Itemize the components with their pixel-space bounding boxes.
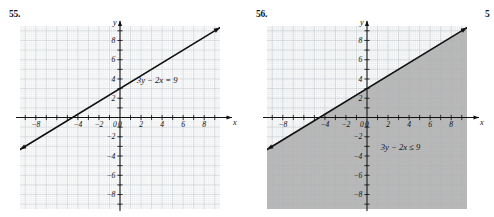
origin-label: 0 [360, 120, 364, 129]
y-tick-label: −8 [353, 190, 362, 199]
x-tick-label: 4 [160, 120, 164, 129]
x-tick-label: 6 [181, 120, 185, 129]
x-axis-label: x [479, 118, 484, 127]
y-tick-label: −4 [106, 152, 115, 161]
x-tick-label: 8 [202, 120, 206, 129]
x-axis-arrow [227, 115, 233, 119]
x-tick-label: −2 [341, 120, 350, 129]
origin-label: 0 [113, 120, 117, 129]
equation-label: 3y − 2x = 9 [136, 75, 178, 85]
x-tick-label: 2 [139, 120, 143, 129]
figure-number-56: 56. [256, 9, 267, 19]
y-tick-label: 6 [112, 55, 116, 64]
y-tick-label: 2 [112, 94, 116, 103]
y-tick-label: −4 [353, 152, 362, 161]
x-tick-label: −4 [320, 120, 329, 129]
y-tick-label: −6 [106, 171, 115, 180]
y-tick-label: 4 [359, 75, 363, 84]
figure-55: 55. −8−4−2024688642−2−4−6−80xy3y − 2x = … [0, 0, 247, 217]
x-tick-label: 6 [428, 120, 432, 129]
x-tick-label: −8 [278, 120, 287, 129]
x-tick-label: −4 [73, 120, 82, 129]
y-tick-label: −6 [353, 171, 362, 180]
y-tick-label: 8 [359, 36, 363, 45]
x-tick-label: 0 [118, 120, 122, 129]
y-axis-arrow [118, 21, 122, 27]
x-axis-arrow [474, 115, 480, 119]
y-axis-arrow [365, 21, 369, 27]
equation-label: 3y − 2x ≤ 9 [380, 142, 421, 152]
y-tick-label: 2 [359, 94, 363, 103]
y-tick-label: 6 [359, 55, 363, 64]
y-tick-label: −2 [353, 132, 362, 141]
y-axis-label: y [112, 20, 117, 27]
next-figure-number-partial: 5 [485, 9, 493, 19]
x-tick-label: 4 [407, 120, 411, 129]
x-tick-label: 8 [449, 120, 453, 129]
y-axis-label: y [359, 20, 364, 27]
plot-area-56: −8−4−2024688642−2−4−6−80xy3y − 2x ≤ 9 [257, 20, 489, 215]
figure-56: 56. −8−4−2024688642−2−4−6−80xy3y − 2x ≤ … [247, 0, 494, 217]
worksheet-page: 55. −8−4−2024688642−2−4−6−80xy3y − 2x = … [0, 0, 494, 217]
y-tick-label: −8 [106, 190, 115, 199]
y-tick-label: 4 [112, 75, 116, 84]
y-tick-label: −2 [106, 132, 115, 141]
figure-number-55: 55. [9, 9, 20, 19]
y-tick-label: 8 [112, 36, 116, 45]
coordinate-plane-55: −8−4−2024688642−2−4−6−80xy3y − 2x = 9 [10, 20, 242, 215]
x-tick-label: 0 [365, 120, 369, 129]
coordinate-plane-56: −8−4−2024688642−2−4−6−80xy3y − 2x ≤ 9 [257, 20, 489, 215]
x-tick-label: 2 [386, 120, 390, 129]
x-tick-label: −8 [31, 120, 40, 129]
x-axis-label: x [232, 118, 237, 127]
x-tick-label: −2 [94, 120, 103, 129]
plot-area-55: −8−4−2024688642−2−4−6−80xy3y − 2x = 9 [10, 20, 242, 215]
